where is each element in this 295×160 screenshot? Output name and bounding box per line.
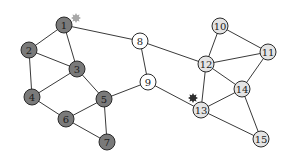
node-label: 3 <box>74 64 80 75</box>
node-label: 9 <box>145 77 151 88</box>
edge-8-12 <box>140 41 206 64</box>
node-11: 11 <box>260 44 276 60</box>
node-14: 14 <box>234 81 250 97</box>
network-graph: 123456789101112131415 <box>0 0 295 160</box>
node-label: 1 <box>61 20 67 31</box>
node-2: 2 <box>21 42 37 58</box>
node-label: 10 <box>214 21 227 32</box>
node-5: 5 <box>96 91 112 107</box>
node-6: 6 <box>58 111 74 127</box>
node-9: 9 <box>140 74 156 90</box>
edge-11-12 <box>206 52 268 64</box>
node-12: 12 <box>198 56 214 72</box>
node-label: 4 <box>29 92 35 103</box>
node-label: 15 <box>255 134 268 145</box>
nodes-layer: 123456789101112131415 <box>21 17 276 150</box>
node-label: 13 <box>195 105 208 116</box>
dark-star-icon <box>188 93 198 103</box>
node-label: 12 <box>200 59 213 70</box>
node-label: 7 <box>104 137 110 148</box>
markers-layer <box>71 13 198 103</box>
node-10: 10 <box>212 18 228 34</box>
node-3: 3 <box>69 61 85 77</box>
node-label: 8 <box>137 36 143 47</box>
node-7: 7 <box>99 134 115 150</box>
node-label: 6 <box>63 114 69 125</box>
node-1: 1 <box>56 17 72 33</box>
node-8: 8 <box>132 33 148 49</box>
node-label: 11 <box>262 47 275 58</box>
edge-1-8 <box>64 25 140 41</box>
node-label: 5 <box>101 94 107 105</box>
node-4: 4 <box>24 89 40 105</box>
gray-star-icon <box>71 13 81 23</box>
node-13: 13 <box>193 102 209 118</box>
node-label: 14 <box>236 84 249 95</box>
node-label: 2 <box>26 45 32 56</box>
node-15: 15 <box>253 131 269 147</box>
